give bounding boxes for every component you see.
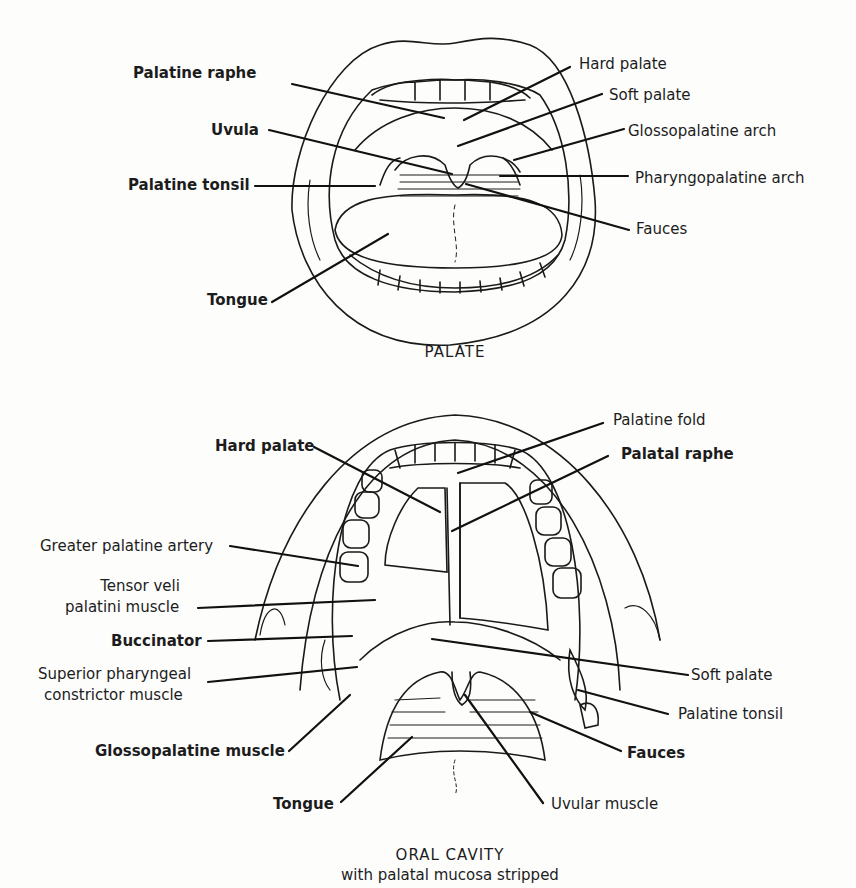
figure-title-oral-cavity: ORAL CAVITY — [360, 846, 540, 864]
label-greater-palatine-artery: Greater palatine artery — [40, 537, 213, 555]
label-buccinator: Buccinator — [111, 632, 202, 650]
label-soft-palate-2: Soft palate — [691, 666, 773, 684]
label-tensor-veli: Tensor veli — [80, 577, 200, 595]
label-tongue-2: Tongue — [273, 795, 334, 813]
label-fauces-2: Fauces — [627, 744, 685, 762]
label-palatine-fold: Palatine fold — [613, 411, 706, 429]
label-superior-pharyngeal: Superior pharyngeal — [38, 665, 191, 683]
label-palatine-tonsil-2: Palatine tonsil — [678, 705, 783, 723]
label-tensor-veli-palatini: palatini muscle — [65, 598, 179, 616]
label-hard-palate-2: Hard palate — [215, 437, 315, 455]
label-palatal-raphe: Palatal raphe — [621, 445, 734, 463]
label-glossopalatine-muscle: Glossopalatine muscle — [95, 742, 285, 760]
label-constrictor-muscle: constrictor muscle — [44, 686, 183, 704]
figure-subtitle-oral-cavity: with palatal mucosa stripped — [310, 866, 590, 884]
label-uvular-muscle: Uvular muscle — [551, 795, 658, 813]
